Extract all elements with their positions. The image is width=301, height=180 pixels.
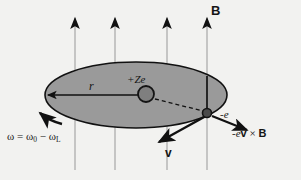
velocity-label: v	[165, 147, 172, 159]
orbit-direction-arrow	[40, 113, 62, 124]
lorentz-force-cross-symbol: ×	[247, 127, 259, 139]
lorentz-force-label: -ev × B	[232, 128, 266, 139]
radius-label: r	[89, 80, 94, 92]
electron-charge-label: -e	[220, 109, 229, 120]
angular-frequency-lhs: ω = ω	[7, 130, 33, 142]
lorentz-force-field-symbol: B	[258, 127, 266, 139]
angular-frequency-minus: − ω	[37, 130, 56, 142]
nucleus-charge-label: +Ze	[127, 74, 145, 85]
nucleus	[138, 86, 154, 102]
magnetic-field-label: B	[211, 4, 220, 17]
lorentz-force-prefix: -e	[232, 127, 241, 139]
figure-canvas	[0, 0, 301, 180]
physics-figure: B +Ze r -e v -ev × B ω = ω0 − ωL	[0, 0, 301, 180]
electron	[203, 109, 212, 118]
angular-frequency-label: ω = ω0 − ωL	[7, 131, 60, 144]
angular-frequency-subscript-larmor: L	[56, 135, 61, 144]
